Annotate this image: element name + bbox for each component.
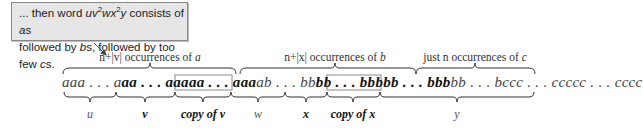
label-v: v: [142, 107, 147, 122]
label-copy-x: copy of x: [331, 107, 376, 122]
segment-y: bb . . . bccc . . . ccccc . . . cccc: [451, 74, 643, 90]
label-x: x: [303, 107, 309, 122]
label-copy-v: copy of v: [181, 107, 225, 122]
bottom-brace-y: [380, 92, 534, 102]
segment-copy-v: aa . . . aaa: [189, 74, 256, 90]
bottom-brace-copy-v: [175, 92, 231, 102]
label-y: y: [454, 107, 459, 122]
segment-copy-x: bb . . . bbb: [383, 74, 450, 90]
label-w: w: [254, 107, 262, 122]
bottom-brace-v: [116, 92, 175, 102]
segment-u: aaa . . . a: [62, 74, 122, 90]
top-label-b: n+|x| occurrences of b: [284, 51, 385, 63]
top-brace-b: [240, 63, 416, 74]
pumped-string: aaa . . . aaa . . . aaaaa . . . aaaab . …: [62, 74, 643, 91]
label-u: u: [87, 107, 93, 122]
segment-v: aa . . . aaa: [122, 74, 189, 90]
top-label-a: n+|v| occurrences of a: [99, 51, 200, 63]
top-brace-a: [63, 63, 236, 74]
top-label-c: just n occurrences of c: [423, 51, 526, 63]
bottom-brace-copy-x: [327, 92, 380, 102]
bottom-brace-w: [231, 92, 285, 102]
top-brace-c: [416, 63, 535, 74]
bottom-brace-x: [285, 92, 327, 102]
segment-x: bb . . . bbb: [316, 74, 383, 90]
segment-w: ab . . . bb: [256, 74, 316, 90]
bottom-brace-u: [64, 92, 116, 102]
